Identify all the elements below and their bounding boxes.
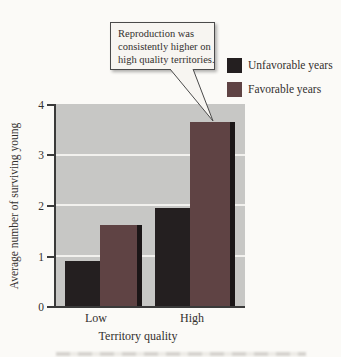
bar-high-unfavorable	[155, 208, 190, 307]
bar-chart-figure: Reproduction was consistently higher on …	[0, 0, 341, 357]
legend-item-favorable: Favorable years	[227, 82, 321, 97]
y-axis-tick-label-0: 0	[18, 300, 44, 314]
legend-swatch-favorable	[227, 82, 242, 97]
y-axis-tick-label-2: 2	[18, 199, 44, 213]
annotation-text-line: Reproduction was	[118, 27, 214, 40]
x-axis-label-low: Low	[66, 311, 126, 326]
y-axis-tick-4	[47, 104, 55, 106]
legend-label-favorable: Favorable years	[248, 82, 321, 97]
x-axis-title: Territory quality	[68, 329, 208, 344]
y-axis-tick-1	[47, 256, 55, 258]
cropped-caption-artifact	[56, 352, 306, 356]
y-axis-tick-label-3: 3	[18, 148, 44, 162]
bar-low-favorable	[100, 225, 142, 306]
legend-label-unfavorable: Unfavorable years	[248, 58, 333, 73]
y-axis-tick-label-4: 4	[18, 98, 44, 112]
annotation-text-line: consistently higher on	[118, 40, 214, 53]
legend-item-unfavorable: Unfavorable years	[227, 58, 333, 73]
plot-area	[54, 104, 245, 308]
y-axis-title: Average number of surviving young	[8, 123, 20, 290]
y-axis-tick-3	[47, 154, 55, 156]
annotation-callout-box: Reproduction was consistently higher on …	[110, 22, 215, 70]
y-axis-tick-label-1: 1	[18, 250, 44, 264]
bar-high-favorable	[190, 122, 235, 306]
y-axis-tick-2	[47, 205, 55, 207]
x-axis-label-high: High	[162, 311, 222, 326]
y-axis-tick-0	[47, 306, 55, 308]
bar-low-unfavorable	[65, 261, 100, 307]
annotation-text-line: high quality territories.	[118, 53, 214, 66]
legend-swatch-unfavorable	[227, 58, 242, 73]
